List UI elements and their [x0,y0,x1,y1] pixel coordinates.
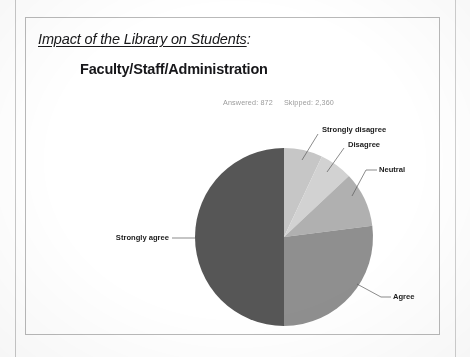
scanned-document-page: Impact of the Library on Students: Facul… [0,0,470,357]
page-title-colon: : [247,31,251,47]
chart-subtitle: Faculty/Staff/Administration [80,61,268,77]
answered-count: Answered: 872 [223,98,273,107]
page-edge-left-line [15,0,16,357]
page-title: Impact of the Library on Students: [38,31,251,47]
skipped-count: Skipped: 2,360 [284,98,334,107]
page-title-text: Impact of the Library on Students [38,31,247,47]
response-stats: Answered: 872Skipped: 2,360 [223,98,334,107]
page-edge-right-line [455,0,456,357]
